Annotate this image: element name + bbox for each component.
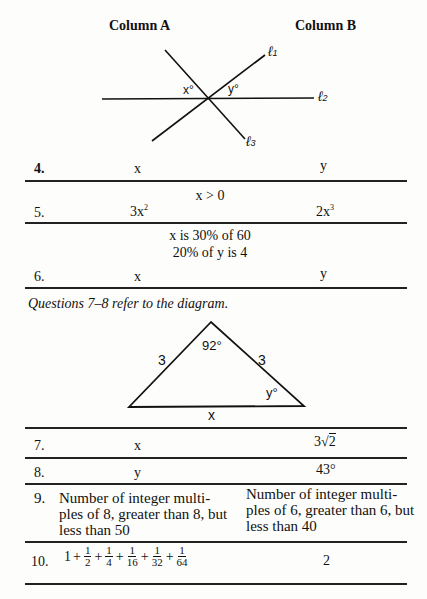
plus-sign: + [94, 549, 102, 565]
plus-sign: + [73, 549, 81, 565]
angle-x-label: x° [183, 83, 194, 97]
row-divider [25, 222, 407, 224]
question-8-number: 8. [34, 465, 45, 481]
plus-sign: + [116, 549, 124, 565]
question-5-column-b: 2x3 [316, 203, 334, 220]
question-8-column-a: y [134, 465, 141, 481]
text-line: ples of 8, greater than 8, but [59, 506, 239, 522]
text-line: less than 50 [59, 522, 239, 538]
text-line: Number of integer multi- [246, 486, 416, 502]
condition-line: x is 30% of 60 [110, 227, 310, 244]
label-l1: ℓ1 [268, 43, 278, 59]
condition-line: 20% of y is 4 [110, 244, 310, 261]
row-divider [25, 427, 407, 429]
question-7-column-b: 3√2 [314, 434, 336, 450]
fraction: 164 [177, 545, 188, 568]
question-4-column-a: x [134, 161, 141, 177]
question-7-column-a: x [134, 438, 141, 454]
fraction: 132 [152, 545, 163, 568]
label-l3: ℓ3 [246, 133, 256, 149]
question-6-condition: x is 30% of 60 20% of y is 4 [110, 227, 310, 261]
triangle-diagram [129, 322, 304, 407]
row-divider [25, 287, 407, 289]
question-6-column-b: y [320, 266, 327, 282]
text-line: Number of integer multi- [59, 490, 239, 506]
question-9-number: 9. [34, 490, 45, 507]
question-4-number: 4. [34, 161, 45, 177]
row-divider [25, 180, 407, 182]
question-7-number: 7. [34, 438, 45, 454]
triangle-base-label: x [208, 407, 215, 423]
question-4-column-b: y [320, 158, 327, 174]
question-5-condition: x > 0 [110, 187, 310, 204]
triangle-left-side-label: 3 [158, 352, 166, 368]
row-divider [25, 541, 407, 543]
fraction: 116 [127, 545, 138, 568]
question-10-column-a: 1 + 12 + 14 + 116 + 132 + 164 [64, 545, 189, 568]
triangle [129, 322, 304, 407]
row-divider [25, 483, 407, 485]
question-10-number: 10. [31, 554, 49, 570]
triangle-right-side-label: 3 [258, 352, 266, 368]
fraction: 14 [105, 545, 113, 568]
plus-sign: + [141, 549, 149, 565]
question-9-column-a: Number of integer multi- ples of 8, grea… [59, 490, 239, 538]
triangle-apex-angle-label: 92° [202, 338, 222, 353]
diagram-instruction: Questions 7–8 refer to the diagram. [28, 296, 228, 312]
question-5-number: 5. [34, 205, 45, 221]
question-9-column-b: Number of integer multi- ples of 6, grea… [246, 486, 416, 534]
term: 1 [64, 549, 71, 565]
question-10-column-b: 2 [323, 553, 330, 569]
text-line: ples of 6, greater than 6, but [246, 502, 416, 518]
triangle-base-angle-label: y° [266, 385, 278, 400]
angle-y-label: y° [228, 82, 239, 96]
row-divider [25, 457, 407, 459]
question-6-column-a: x [134, 269, 141, 285]
fraction: 12 [84, 545, 92, 568]
row-divider [25, 583, 407, 585]
question-6-number: 6. [34, 269, 45, 285]
label-l2: ℓ2 [318, 88, 328, 104]
intersecting-lines-diagram [102, 50, 314, 141]
text-line: less than 40 [246, 518, 416, 534]
question-5-column-a: 3x2 [130, 203, 148, 220]
question-8-column-b: 43° [316, 462, 336, 478]
plus-sign: + [166, 549, 174, 565]
